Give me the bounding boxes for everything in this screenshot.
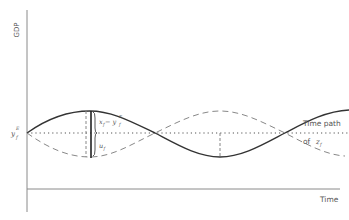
gdp-time-diagram: GDP Time y f E x f − y f E u f Time path…: [0, 0, 349, 220]
dashed-curve: [27, 111, 345, 157]
gap-brace: [93, 112, 97, 156]
svg-text:f: f: [118, 122, 122, 127]
svg-text:− y: − y: [105, 118, 117, 126]
svg-text:f: f: [103, 146, 107, 151]
svg-text:f: f: [319, 142, 323, 147]
u-label: u f: [99, 142, 107, 151]
svg-text:of: of: [303, 137, 311, 146]
svg-text:f: f: [15, 135, 19, 140]
svg-text:E: E: [15, 126, 20, 131]
svg-text:Time path: Time path: [302, 119, 341, 128]
y-axis-label: GDP: [13, 22, 21, 37]
potential-output-label: y f E: [10, 126, 20, 140]
svg-text:E: E: [118, 114, 122, 119]
x-axis-label: Time: [319, 195, 339, 204]
output-gap-label: x f − y f E: [99, 114, 122, 127]
